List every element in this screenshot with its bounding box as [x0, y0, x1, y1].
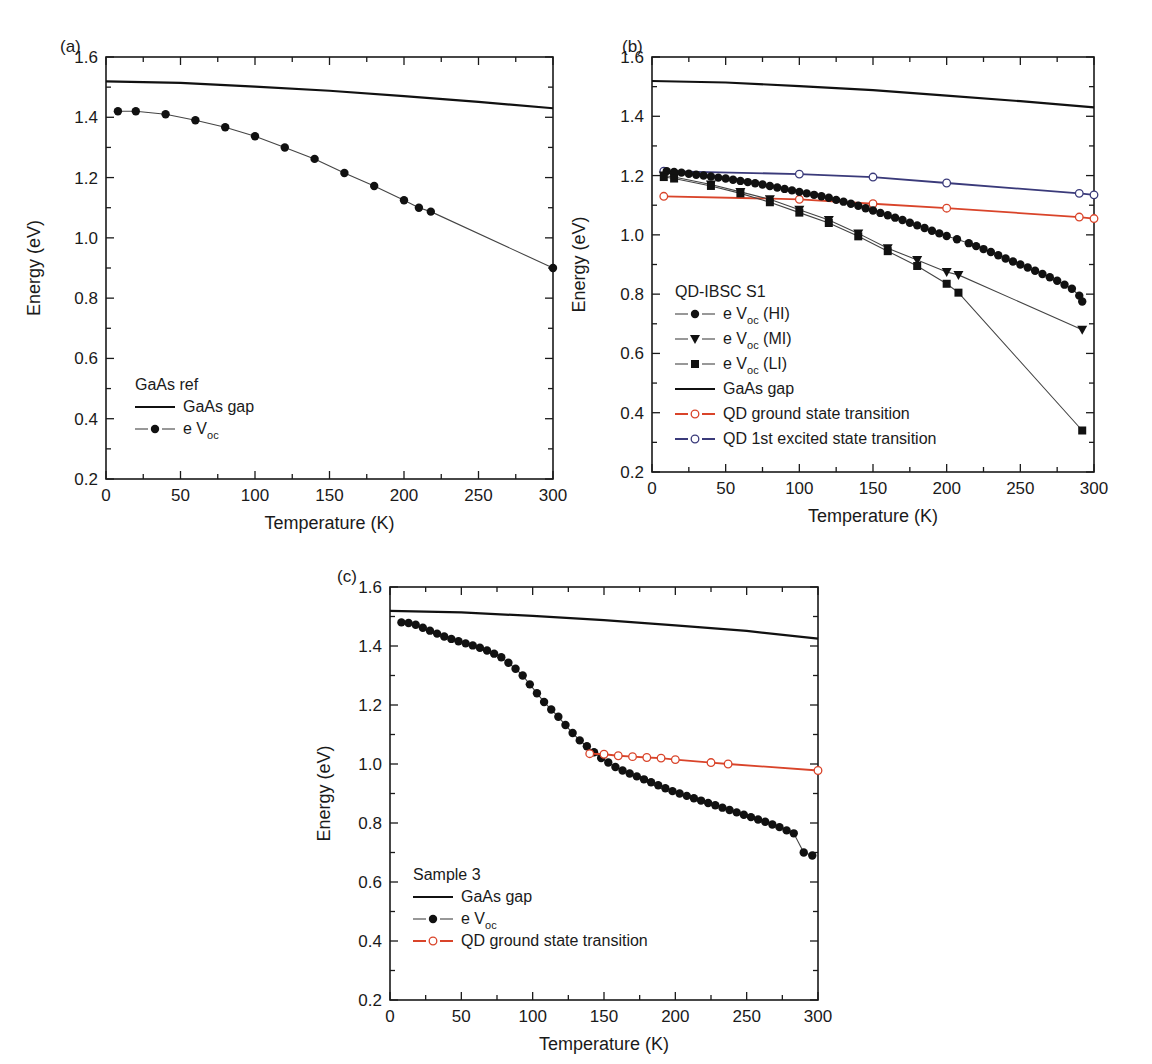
data-point [707, 759, 715, 767]
data-point [790, 829, 798, 837]
data-point [469, 641, 477, 649]
data-point [568, 729, 576, 737]
legend: Sample 3GaAs gape VocQD ground state tra… [413, 866, 648, 949]
data-point [754, 815, 762, 823]
data-point [114, 107, 122, 115]
data-point [954, 289, 962, 297]
data-point [795, 188, 803, 196]
data-point [744, 178, 752, 186]
data-point [711, 801, 719, 809]
legend-entry: QD 1st excited state transition [675, 430, 936, 447]
data-point [1038, 270, 1046, 278]
data-point [454, 637, 462, 645]
legend-entry: GaAs gap [675, 380, 794, 397]
legend-entry: QD ground state transition [675, 405, 910, 422]
data-point [825, 219, 833, 227]
data-point [490, 649, 498, 657]
data-point [281, 143, 289, 151]
data-point [132, 107, 140, 115]
y-tick-label: 1.0 [620, 226, 644, 245]
data-point [549, 264, 557, 272]
data-point [810, 191, 818, 199]
data-point [629, 753, 637, 761]
legend-entry: GaAs gap [135, 398, 254, 415]
data-point [691, 435, 699, 443]
data-point [972, 242, 980, 250]
x-tick-label: 200 [661, 1007, 689, 1026]
data-point [440, 632, 448, 640]
series-gaas-gap [106, 81, 553, 108]
y-tick-label: 1.4 [74, 108, 98, 127]
data-point [670, 175, 678, 183]
legend-label: GaAs gap [461, 888, 532, 905]
data-point [697, 796, 705, 804]
x-tick-label: 150 [590, 1007, 618, 1026]
series-gaas-gap [390, 611, 818, 639]
data-point [736, 189, 744, 197]
y-tick-label: 0.2 [358, 991, 382, 1010]
legend-label: e Voc [183, 420, 219, 441]
data-point [1060, 280, 1068, 288]
data-point [773, 183, 781, 191]
data-point [683, 792, 691, 800]
data-point [920, 224, 928, 232]
data-point [913, 262, 921, 270]
y-tick-label: 0.4 [74, 410, 98, 429]
data-point [1023, 263, 1031, 271]
panel-label: (c) [337, 567, 357, 586]
x-tick-label: 200 [390, 486, 418, 505]
series-e-v-oc [397, 618, 816, 859]
x-tick-label: 0 [647, 479, 656, 498]
data-point [884, 211, 892, 219]
y-axis-title: Energy (eV) [569, 216, 589, 312]
x-tick-label: 150 [315, 486, 343, 505]
data-point [725, 806, 733, 814]
legend-entry: GaAs gap [413, 888, 532, 905]
y-tick-label: 0.6 [74, 349, 98, 368]
legend: QD-IBSC S1e Voc (HI)e Voc (MI)e Voc (LI)… [675, 283, 936, 447]
legend-title: GaAs ref [135, 376, 199, 393]
data-point [825, 194, 833, 202]
data-point [1009, 257, 1017, 265]
y-tick-label: 1.2 [358, 696, 382, 715]
data-point [913, 221, 921, 229]
x-tick-label: 200 [932, 479, 960, 498]
y-tick-label: 0.8 [74, 289, 98, 308]
figure-canvas: (a)0501001502002503000.20.40.60.81.01.21… [0, 0, 1152, 1064]
panel-c: (c)0501001502002503000.20.40.60.81.01.21… [314, 567, 832, 1054]
data-point [1046, 273, 1054, 281]
data-point [547, 705, 555, 713]
x-axis-title: Temperature (K) [264, 513, 394, 533]
data-point [943, 204, 951, 212]
data-point [965, 239, 973, 247]
y-tick-label: 1.2 [620, 167, 644, 186]
legend: GaAs refGaAs gape Voc [135, 376, 254, 441]
data-point [404, 619, 412, 627]
legend-label: QD ground state transition [461, 932, 648, 949]
data-point [884, 247, 892, 255]
y-tick-label: 0.2 [620, 463, 644, 482]
series-gaas-gap [652, 81, 1094, 107]
data-point [497, 653, 505, 661]
data-point [707, 172, 715, 180]
y-tick-label: 1.6 [358, 578, 382, 597]
data-point [1075, 213, 1083, 221]
x-tick-label: 300 [1080, 479, 1108, 498]
data-point [511, 665, 519, 673]
data-point [869, 173, 877, 181]
data-point [668, 787, 676, 795]
data-point [685, 170, 693, 178]
data-point [691, 360, 699, 368]
data-point [953, 235, 961, 243]
data-point [692, 170, 700, 178]
data-point [766, 182, 774, 190]
data-point [800, 848, 808, 856]
legend-label: QD 1st excited state transition [723, 430, 936, 447]
data-point [427, 207, 435, 215]
legend-entry: QD ground state transition [413, 932, 648, 949]
data-point [554, 713, 562, 721]
data-point [869, 206, 877, 214]
legend-label: e Voc (HI) [723, 305, 790, 326]
panel-b: (b)0501001502002503000.20.40.60.81.01.21… [569, 37, 1108, 526]
data-point [504, 659, 512, 667]
